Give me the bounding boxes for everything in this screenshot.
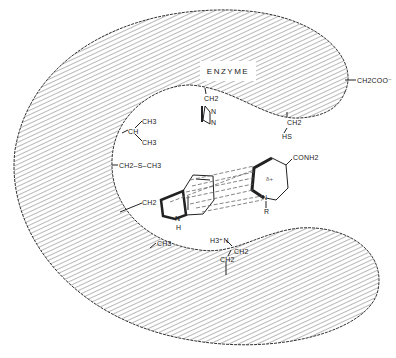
enzyme-body-shape	[14, 10, 379, 345]
diagram-canvas	[0, 0, 396, 358]
histidine-residue	[202, 88, 210, 124]
val-ch-label: CH	[128, 128, 139, 135]
his-n1-label: N	[211, 108, 216, 115]
val-ch3-upper-label: CH3	[142, 118, 157, 125]
trp-h-label: H	[176, 224, 181, 231]
his-n2-label: N	[211, 119, 216, 126]
trp-n-label: N	[175, 215, 180, 222]
lys-ch2-upper-label: CH2	[234, 248, 249, 255]
ala-ch3-label: CH3	[157, 240, 172, 247]
asp-ch2coo-label: CH2COO⁻	[357, 77, 392, 84]
enzyme-label: ENZYME	[200, 61, 256, 81]
cys-hs-label: HS	[282, 133, 292, 140]
val-ch3-lower-label: CH3	[142, 139, 157, 146]
trp-ch2-label: CH2	[142, 199, 157, 206]
tryptophan-indole	[120, 175, 214, 219]
lys-ch2-lower-label: CH2	[220, 256, 235, 263]
met-label: CH2–S–CH3	[119, 162, 161, 169]
lys-amine-label: H3⁺N	[210, 237, 229, 244]
conh2-label: CONH2	[293, 154, 319, 161]
cys-ch2-label: CH2	[287, 119, 302, 126]
ring-charge-label: δ+	[266, 176, 273, 182]
ring-n-label: N	[262, 194, 267, 201]
his-ch2-label: CH2	[204, 95, 219, 102]
ring-r-label: R	[264, 208, 269, 215]
enzyme-active-site-diagram: ENZYME CH2 N N CH2 HS CH2COO⁻ CH CH3 CH3…	[0, 0, 396, 358]
